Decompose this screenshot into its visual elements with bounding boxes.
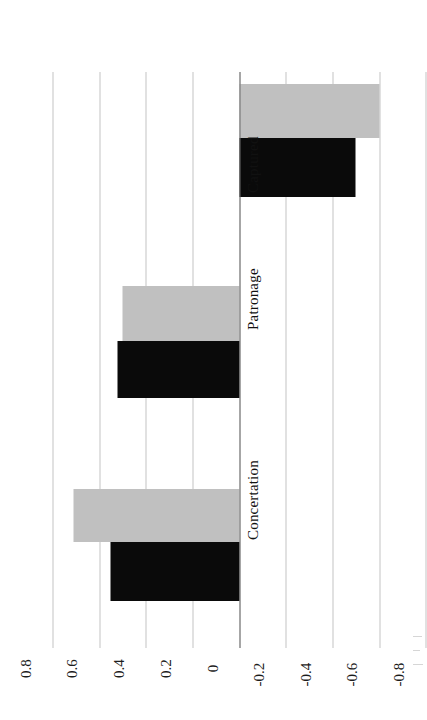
gridline--0.8 [426, 72, 427, 648]
gridline-0.8 [53, 72, 54, 648]
zero-axis-line [239, 72, 240, 648]
gridline-0.6 [99, 72, 100, 648]
bar-patronage-black [118, 341, 239, 398]
caption-mark-2 [413, 650, 420, 651]
caption-mark-1 [413, 636, 422, 637]
caption-mark-3 [413, 664, 423, 665]
caption-edge-artifact [411, 628, 425, 708]
category-label-concertation: Concertation [245, 460, 262, 540]
bar-concertation-gray [74, 489, 240, 542]
chart-canvas: Concertation Patronage Captured [27, 72, 400, 648]
bar-captured-gray [239, 84, 379, 138]
plot-area: Concertation Patronage Captured [53, 72, 400, 648]
bar-patronage-gray [123, 286, 240, 341]
gridline--0.6 [379, 72, 380, 648]
category-label-captured: Captured [245, 136, 262, 193]
category-label-patronage: Patronage [245, 268, 262, 330]
bar-concertation-black [111, 542, 239, 601]
